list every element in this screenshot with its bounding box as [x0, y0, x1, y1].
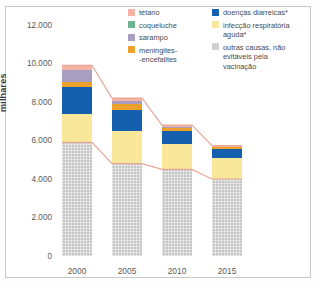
- legend-label-coqueluche: coqueluche: [139, 21, 177, 30]
- bar-segment-2000-0: [62, 142, 92, 256]
- bar-segment-2005-0: [112, 164, 142, 256]
- legend-swatch-sarampo: [128, 34, 135, 41]
- bar-2000: [62, 65, 92, 256]
- legend-label-respiratoria: infecção respiratória aguda*: [223, 21, 290, 40]
- legend-swatch-outras: [212, 43, 219, 50]
- bar-segment-2005-1: [112, 131, 142, 164]
- legend-item-coqueluche: coqueluche: [128, 21, 206, 30]
- legend-label-sarampo: sarampo: [139, 33, 168, 42]
- y-tick-8000: 8.000: [4, 98, 52, 107]
- bar-segment-2000-4: [62, 70, 92, 82]
- x-label-2000: 2000: [49, 266, 105, 276]
- legend-column-left: tétano coqueluche sarampo meningites- -e…: [128, 8, 206, 71]
- legend-column-right: doenças diarreicas* infecção respiratóri…: [212, 8, 306, 71]
- bar-2010: [162, 125, 192, 256]
- legend-swatch-respiratoria: [212, 21, 219, 28]
- bar-segment-2015-1: [212, 158, 242, 179]
- legend-swatch-meningites: [128, 46, 135, 53]
- legend-swatch-coqueluche: [128, 21, 135, 28]
- y-tick-10000: 10.000: [4, 59, 52, 68]
- legend-item-respiratoria: infecção respiratória aguda*: [212, 21, 306, 40]
- legend-swatch-diarreicas: [212, 9, 219, 16]
- legend-item-diarreicas: doenças diarreicas*: [212, 8, 306, 17]
- y-tick-0: 0: [4, 252, 52, 261]
- bar-segment-2000-1: [62, 114, 92, 143]
- legend-item-sarampo: sarampo: [128, 33, 206, 42]
- legend-label-outras: outras causas, não evitáveis pela vacina…: [223, 43, 285, 71]
- x-label-2010: 2010: [149, 266, 205, 276]
- legend-label-tetano: tétano: [139, 8, 160, 17]
- y-tick-6000: 6.000: [4, 136, 52, 145]
- x-label-2005: 2005: [99, 266, 155, 276]
- y-axis-ticks: 12.000 10.000 8.000 6.000 4.000 2.000 0: [0, 0, 52, 288]
- legend-label-diarreicas: doenças diarreicas*: [223, 8, 288, 17]
- legend-label-meningites: meningites- -encefalites: [139, 46, 177, 65]
- y-tick-4000: 4.000: [4, 175, 52, 184]
- chart-legend: tétano coqueluche sarampo meningites- -e…: [128, 8, 308, 71]
- y-tick-12000: 12.000: [4, 21, 52, 30]
- bar-segment-2015-0: [212, 179, 242, 256]
- legend-item-outras: outras causas, não evitáveis pela vacina…: [212, 43, 306, 71]
- bar-segment-2000-2: [62, 87, 92, 114]
- legend-swatch-tetano: [128, 9, 135, 16]
- bar-segment-2005-2: [112, 110, 142, 131]
- y-tick-2000: 2.000: [4, 213, 52, 222]
- bar-segment-2010-1: [162, 144, 192, 169]
- legend-item-meningites: meningites- -encefalites: [128, 46, 206, 65]
- x-label-2015: 2015: [199, 266, 255, 276]
- bar-segment-2010-2: [162, 131, 192, 144]
- bar-2005: [112, 98, 142, 256]
- bar-segment-2015-2: [212, 149, 242, 158]
- bar-segment-2010-0: [162, 169, 192, 256]
- legend-item-tetano: tétano: [128, 8, 206, 17]
- bar-2015: [212, 146, 242, 256]
- chart-root: tétano coqueluche sarampo meningites- -e…: [0, 0, 318, 288]
